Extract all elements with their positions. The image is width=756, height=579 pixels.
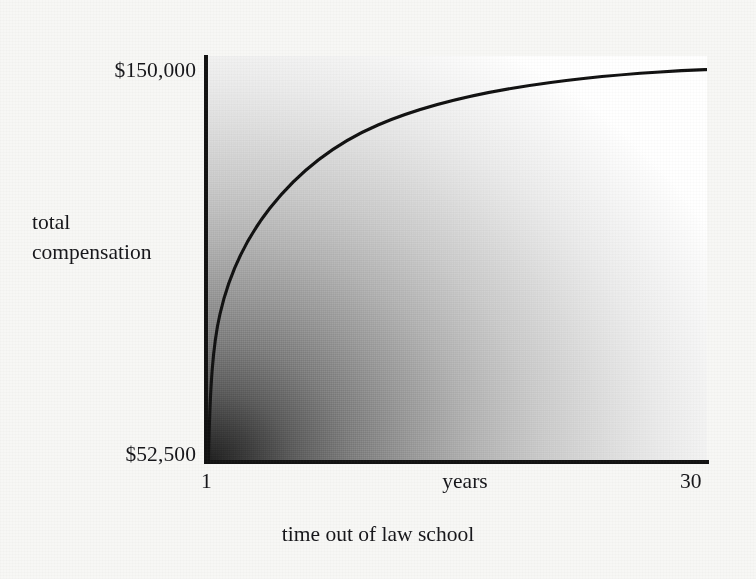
y-axis-tick-bottom: $52,500 (125, 444, 196, 466)
plot-area (208, 56, 707, 462)
y-axis-title-line-1: total (32, 208, 151, 238)
x-axis-tick-right: 30 (680, 471, 702, 493)
x-axis-line (204, 460, 709, 464)
y-axis-title-line-2: compensation (32, 238, 151, 268)
x-axis-title: years (0, 471, 756, 493)
y-axis-title: total compensation (32, 208, 151, 267)
compensation-curve (208, 56, 707, 462)
figure-caption: time out of law school (0, 524, 756, 546)
y-axis-line (204, 55, 208, 464)
y-axis-tick-top: $150,000 (115, 60, 196, 82)
figure-chart: $150,000 $52,500 total compensation 1 ye… (0, 0, 756, 579)
